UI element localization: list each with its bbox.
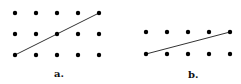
lattice-dot — [228, 52, 232, 56]
connecting-line — [146, 32, 230, 54]
lattice-dot — [186, 30, 190, 34]
lattice-dot — [55, 11, 59, 15]
lattice-dot — [207, 30, 211, 34]
lattice-dot — [97, 32, 101, 36]
lattice-dot — [76, 32, 80, 36]
lattice-dot — [144, 52, 148, 56]
lattice-dot — [55, 53, 59, 57]
lattice-dot — [34, 11, 38, 15]
panel-a-label: a. — [54, 68, 64, 79]
lattice-dot — [13, 32, 17, 36]
lattice-dot — [165, 52, 169, 56]
panel-a-lattice — [13, 11, 101, 57]
lattice-dot — [13, 53, 17, 57]
lattice-dot — [13, 11, 17, 15]
lattice-dot — [97, 11, 101, 15]
lattice-dot — [165, 30, 169, 34]
lattice-dot — [76, 53, 80, 57]
lattice-dot — [34, 32, 38, 36]
lattice-dot — [97, 53, 101, 57]
lattice-dot — [34, 53, 38, 57]
lattice-dot — [186, 52, 190, 56]
lattice-dot — [207, 52, 211, 56]
panel-b-label: b. — [188, 69, 198, 80]
dot-lattice-diagram — [0, 0, 241, 84]
lattice-dot — [144, 30, 148, 34]
lattice-dot — [228, 30, 232, 34]
lattice-dot — [55, 32, 59, 36]
lattice-dot — [76, 11, 80, 15]
panel-b-lattice — [144, 30, 232, 56]
